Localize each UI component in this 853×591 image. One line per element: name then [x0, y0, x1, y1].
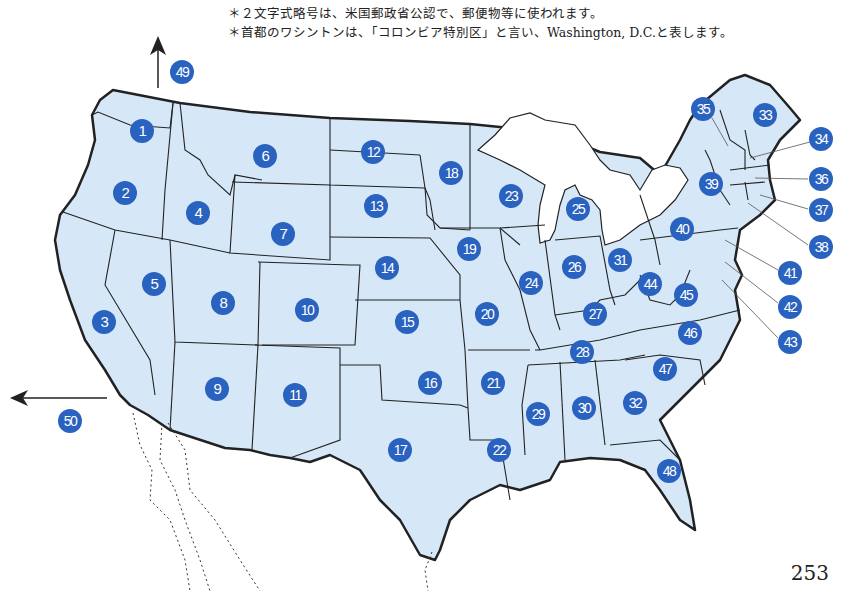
state-badge-50: 50	[58, 409, 82, 433]
state-badge-39: 39	[699, 172, 723, 196]
state-badge-25: 25	[566, 197, 590, 221]
state-badge-30: 30	[572, 396, 596, 420]
state-badge-27: 27	[583, 302, 607, 326]
state-badge-45: 45	[674, 283, 698, 307]
state-badge-13: 13	[364, 194, 388, 218]
state-badge-36: 36	[809, 167, 833, 191]
page-number: 253	[791, 561, 829, 585]
state-badge-5: 5	[142, 272, 166, 296]
state-badge-21: 21	[481, 371, 505, 395]
state-badge-22: 22	[487, 438, 511, 462]
state-badge-26: 26	[562, 255, 586, 279]
arrow-hawaii	[10, 390, 107, 406]
state-badge-10: 10	[295, 298, 319, 322]
state-badge-18: 18	[439, 161, 463, 185]
state-badge-32: 32	[623, 391, 647, 415]
state-badge-19: 19	[457, 237, 481, 261]
state-badge-37: 37	[809, 198, 833, 222]
state-badge-34: 34	[809, 127, 833, 151]
state-badge-2: 2	[113, 181, 137, 205]
state-badge-23: 23	[499, 184, 523, 208]
state-badge-44: 44	[638, 272, 662, 296]
us-states-map	[0, 0, 853, 591]
state-badge-47: 47	[653, 357, 677, 381]
state-badge-15: 15	[395, 310, 419, 334]
us-mainland	[55, 75, 800, 560]
state-badge-11: 11	[283, 383, 307, 407]
state-badge-43: 43	[778, 330, 802, 354]
state-badge-3: 3	[92, 310, 116, 334]
state-badge-48: 48	[657, 459, 681, 483]
state-badge-35: 35	[691, 97, 715, 121]
state-badge-16: 16	[418, 371, 442, 395]
state-badge-24: 24	[519, 271, 543, 295]
state-badge-49: 49	[170, 60, 194, 84]
state-badge-14: 14	[375, 256, 399, 280]
state-badge-42: 42	[778, 295, 802, 319]
state-badge-20: 20	[475, 302, 499, 326]
state-badge-8: 8	[211, 291, 235, 315]
state-badge-33: 33	[753, 103, 777, 127]
state-badge-46: 46	[678, 321, 702, 345]
state-badge-9: 9	[205, 377, 229, 401]
state-badge-17: 17	[388, 438, 412, 462]
state-badge-4: 4	[186, 201, 210, 225]
state-badge-40: 40	[670, 217, 694, 241]
state-badge-7: 7	[271, 222, 295, 246]
state-badge-1: 1	[130, 119, 154, 143]
state-badge-6: 6	[253, 144, 277, 168]
state-badge-38: 38	[809, 235, 833, 259]
state-badge-12: 12	[361, 140, 385, 164]
state-badge-41: 41	[778, 261, 802, 285]
state-badge-28: 28	[570, 340, 594, 364]
state-badge-29: 29	[526, 402, 550, 426]
state-badge-31: 31	[608, 248, 632, 272]
arrow-alaska	[150, 36, 166, 88]
